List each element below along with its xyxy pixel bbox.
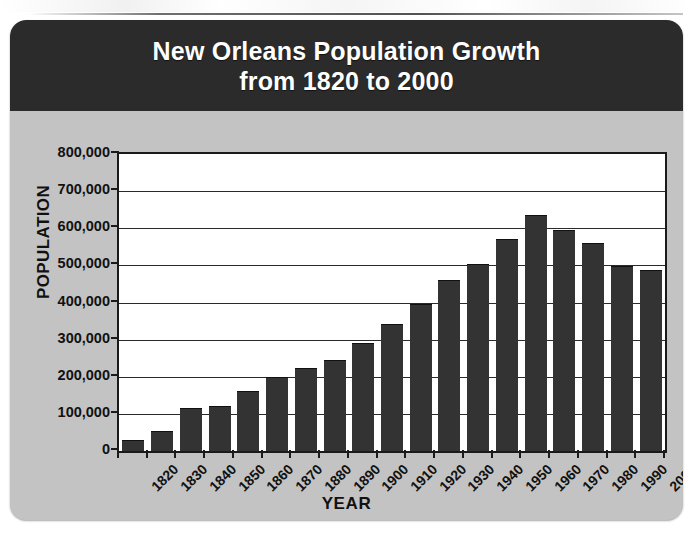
bar [640,270,662,451]
x-axis-tick-mark [347,450,349,458]
x-axis-tick-label: 1830 [177,461,210,494]
bar [180,408,202,451]
chart-title-line-2: from 1820 to 2000 [153,66,541,96]
x-axis-tick-mark [634,450,636,458]
y-axis-tick-label: 100,000 [58,405,110,419]
x-axis-tick-mark [261,450,263,458]
bar [525,215,547,451]
bar [438,280,460,451]
y-axis-tick-label: 700,000 [58,182,110,196]
x-axis-tick-label: 1840 [206,461,239,494]
chart-title-bar: New Orleans Population Growth from 1820 … [10,20,683,111]
bar [582,243,604,451]
y-axis-tick-labels: 0100,000200,000300,000400,000500,000600,… [10,145,110,456]
x-axis-tick-mark [232,450,234,458]
x-axis-tick-mark [289,450,291,458]
x-axis-tick-label: 1940 [493,461,526,494]
x-axis-tick-label: 1960 [551,461,584,494]
y-axis-tick-label: 500,000 [58,256,110,270]
y-axis-tick-label: 300,000 [58,331,110,345]
x-axis-tick-label: 1980 [608,461,641,494]
x-axis-tick-mark [491,450,493,458]
bar [324,360,346,451]
bar [381,324,403,451]
gridline [119,228,665,229]
x-axis-tick-mark [606,450,608,458]
x-axis-tick-mark [577,450,579,458]
y-axis-tick-label: 400,000 [58,294,110,308]
x-axis-tick-label: 1910 [407,461,440,494]
x-axis-tick-mark [146,450,148,458]
x-axis-tick-label: 1950 [522,461,555,494]
page-title: New Orleans Population Growth from 1820 … [153,36,541,96]
bar [237,391,259,451]
bar [266,377,288,451]
chart-card: New Orleans Population Growth from 1820 … [10,20,683,520]
x-axis-tick-label: 1970 [580,461,613,494]
bar [352,343,374,451]
x-axis-tick-label: 1900 [378,461,411,494]
x-axis-tick-label: 1990 [637,461,670,494]
x-axis-tick-label: 1870 [292,461,325,494]
x-axis-tick-label: 1860 [263,461,296,494]
bar [410,304,432,451]
x-axis-tick-mark [462,450,464,458]
x-axis-tick-mark [404,450,406,458]
x-axis-tick-mark [318,450,320,458]
x-axis-tick-label: 2000 [666,461,683,494]
x-axis-tick-label: 1880 [321,461,354,494]
y-axis-tick-label: 0 [102,442,110,456]
bar [553,230,575,451]
chart-title-line-1: New Orleans Population Growth [153,37,541,65]
x-axis-tick-mark [174,450,176,458]
scan-edge-line [28,13,683,15]
y-axis-tick-label: 800,000 [58,145,110,159]
x-axis-tick-mark [433,450,435,458]
x-axis-tick-mark [548,450,550,458]
x-axis-tick-mark [519,450,521,458]
x-axis-tick-label: 1930 [465,461,498,494]
bar [122,440,144,451]
plot-area [117,152,667,453]
x-axis-tick-label: 1820 [148,461,181,494]
bar [496,239,518,451]
x-axis-tick-mark [203,450,205,458]
x-axis-tick-label: 1850 [235,461,268,494]
bar [209,406,231,451]
x-axis-tick-label: 1920 [436,461,469,494]
bar [611,266,633,452]
y-axis-tick-label: 200,000 [58,368,110,382]
gridline [119,191,665,192]
y-axis-tick-label: 600,000 [58,219,110,233]
bar [295,368,317,451]
x-axis-title: YEAR [10,494,683,514]
x-axis-tick-label: 1890 [350,461,383,494]
bar [151,431,173,451]
bar [467,264,489,451]
x-axis-tick-mark [663,450,665,458]
x-axis-tick-mark [376,450,378,458]
x-axis-tick-mark [117,450,119,458]
scan-artifact [0,0,693,12]
